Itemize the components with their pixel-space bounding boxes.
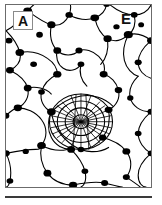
panel-label-a-text: A	[18, 14, 28, 28]
panel-label-a: A	[13, 11, 33, 30]
scale-bar	[5, 196, 152, 198]
figure-panel: A E	[0, 0, 162, 205]
tissue-line-drawing	[6, 5, 151, 187]
micrograph-frame: A E	[5, 4, 152, 188]
region-label-e: E	[121, 11, 131, 26]
